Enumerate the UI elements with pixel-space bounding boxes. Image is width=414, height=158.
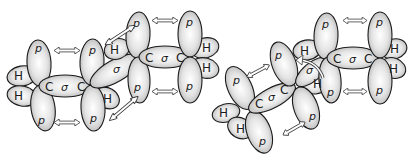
label-h: H: [103, 92, 112, 106]
label-sigma: σ: [113, 63, 121, 76]
label-sigma: σ: [306, 64, 314, 77]
label-c: C: [255, 97, 263, 111]
label-c: C: [77, 80, 85, 94]
double-arrow-icon: [281, 119, 307, 138]
label-sigma: σ: [61, 81, 69, 94]
label-c: C: [176, 51, 184, 65]
right-molecule: p p H H C σ C p p H σ H p p C σ C p p H …: [210, 12, 409, 157]
label-p: p: [232, 74, 240, 87]
label-p: p: [375, 84, 383, 97]
label-h: H: [202, 61, 211, 75]
label-h: H: [390, 42, 399, 56]
label-p: p: [185, 80, 193, 93]
label-h: H: [14, 69, 23, 83]
label-p: p: [37, 114, 45, 127]
label-p: p: [326, 86, 334, 99]
label-h: H: [313, 77, 322, 91]
label-p: p: [133, 81, 141, 94]
label-p: p: [88, 44, 96, 57]
label-p: p: [375, 16, 383, 29]
double-arrow-icon: [152, 17, 178, 24]
label-h: H: [14, 89, 23, 103]
label-sigma: σ: [349, 53, 357, 66]
double-arrow-icon: [343, 88, 367, 95]
double-arrow-icon: [152, 88, 178, 95]
label-sigma: σ: [268, 91, 276, 104]
label-h: H: [110, 43, 119, 57]
label-h: H: [389, 62, 398, 76]
label-h: H: [219, 106, 228, 120]
left-molecule: p p H H C σ C p p H σ H p p C σ C p p H …: [5, 11, 221, 132]
label-p: p: [185, 16, 193, 29]
label-c: C: [280, 83, 288, 97]
label-sigma: σ: [161, 52, 169, 65]
label-p: p: [308, 110, 316, 123]
label-p: p: [321, 18, 329, 31]
label-c: C: [145, 51, 153, 65]
double-arrow-icon: [54, 47, 80, 54]
label-h: H: [236, 122, 245, 136]
label-h: H: [202, 41, 211, 55]
label-c: C: [364, 52, 372, 66]
label-c: C: [333, 52, 341, 66]
butadiene-orbital-diagram: p p H H C σ C p p H σ H p p C σ C p p H …: [0, 0, 414, 158]
double-arrow-icon: [343, 17, 367, 24]
label-p: p: [258, 135, 266, 148]
double-arrow-icon: [54, 119, 80, 126]
label-p: p: [89, 112, 97, 125]
double-arrow-icon: [245, 62, 271, 80]
label-p: p: [274, 49, 282, 62]
label-p: p: [34, 42, 42, 55]
label-c: C: [45, 80, 53, 94]
label-h: H: [300, 44, 309, 58]
